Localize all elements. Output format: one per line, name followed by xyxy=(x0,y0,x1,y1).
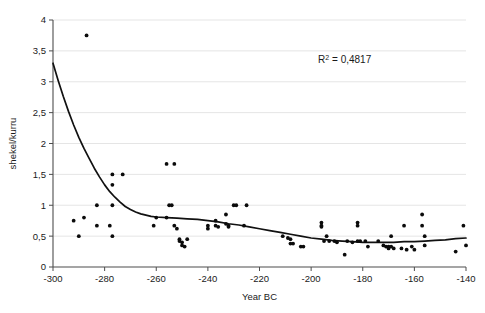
data-point xyxy=(351,240,355,244)
data-point xyxy=(327,239,331,243)
x-tick-label: -260 xyxy=(147,273,166,284)
y-tick-label: 4 xyxy=(41,14,46,25)
data-point xyxy=(165,162,169,166)
data-point xyxy=(85,34,89,38)
y-axis-title: shekel/kurru xyxy=(7,118,18,170)
y-tick-label: 3 xyxy=(41,76,46,87)
x-tick-label: -200 xyxy=(302,273,321,284)
x-tick-label: -220 xyxy=(250,273,269,284)
data-point xyxy=(389,234,393,238)
y-axis-ticks: 00,511,522,533,54 xyxy=(33,14,53,272)
x-axis-ticks: -300-280-260-240-220-200-180-160-140 xyxy=(43,267,475,284)
data-point xyxy=(420,213,424,217)
y-tick-label: 2 xyxy=(41,138,46,149)
r-symbol: R xyxy=(318,54,325,65)
data-points xyxy=(72,34,468,257)
data-point xyxy=(154,216,158,220)
data-point xyxy=(108,224,112,228)
data-point xyxy=(356,224,360,228)
data-point xyxy=(82,216,86,220)
data-point xyxy=(291,242,295,246)
y-tick-label: 0,5 xyxy=(33,231,46,242)
data-point xyxy=(152,224,156,228)
data-point xyxy=(224,213,228,217)
x-tick-label: -240 xyxy=(198,273,217,284)
y-tick-label: 1 xyxy=(41,200,46,211)
x-tick-label: -180 xyxy=(353,273,372,284)
data-point xyxy=(289,237,293,241)
data-point xyxy=(110,183,114,187)
x-tick-label: -140 xyxy=(456,273,475,284)
data-point xyxy=(95,203,99,207)
x-tick-label: -160 xyxy=(405,273,424,284)
data-point xyxy=(110,172,114,176)
data-point xyxy=(183,245,187,249)
r-squared-label: R2 = 0,4817 xyxy=(318,54,372,66)
data-point xyxy=(175,227,179,231)
data-point xyxy=(423,243,427,247)
data-point xyxy=(170,203,174,207)
data-point xyxy=(185,237,189,241)
data-point xyxy=(165,216,169,220)
data-point xyxy=(462,224,466,228)
data-point xyxy=(358,239,362,243)
data-point xyxy=(216,225,220,229)
trendline-curve xyxy=(53,63,466,242)
data-point xyxy=(410,245,414,249)
y-tick-label: 0 xyxy=(41,261,46,272)
y-tick-label: 1,5 xyxy=(33,169,46,180)
data-point xyxy=(325,234,329,238)
x-tick-label: -280 xyxy=(95,273,114,284)
data-point xyxy=(322,239,326,243)
data-point xyxy=(335,240,339,244)
data-point xyxy=(301,245,305,249)
scatter-chart-figure: 00,511,522,533,54 -300-280-260-240-220-2… xyxy=(0,0,485,313)
data-point xyxy=(214,219,218,223)
data-point xyxy=(400,247,404,251)
data-point xyxy=(242,224,246,228)
data-point xyxy=(77,234,81,238)
data-point xyxy=(281,234,285,238)
data-point xyxy=(110,203,114,207)
data-point xyxy=(363,239,367,243)
data-point xyxy=(366,245,370,249)
data-point xyxy=(376,239,380,243)
data-point xyxy=(234,203,238,207)
data-point xyxy=(402,224,406,228)
data-point xyxy=(245,203,249,207)
data-point xyxy=(464,243,468,247)
data-point xyxy=(420,224,424,228)
data-point xyxy=(405,248,409,252)
y-tick-label: 2,5 xyxy=(33,107,46,118)
data-point xyxy=(423,234,427,238)
data-point xyxy=(121,172,125,176)
data-point xyxy=(206,227,210,231)
gridlines xyxy=(53,20,466,236)
data-point xyxy=(343,253,347,257)
data-point xyxy=(227,225,231,229)
data-point xyxy=(95,224,99,228)
data-point xyxy=(345,239,349,243)
x-tick-label: -300 xyxy=(43,273,62,284)
data-point xyxy=(110,234,114,238)
x-axis-title: Year BC xyxy=(242,291,277,302)
data-point xyxy=(392,247,396,251)
data-point xyxy=(72,219,76,223)
data-point xyxy=(412,248,416,252)
data-point xyxy=(320,225,324,229)
data-point xyxy=(172,224,176,228)
data-point xyxy=(172,162,176,166)
y-tick-label: 3,5 xyxy=(33,45,46,56)
data-point xyxy=(454,250,458,254)
r-value: = 0,4817 xyxy=(329,54,371,65)
chart-canvas: 00,511,522,533,54 -300-280-260-240-220-2… xyxy=(0,0,485,313)
